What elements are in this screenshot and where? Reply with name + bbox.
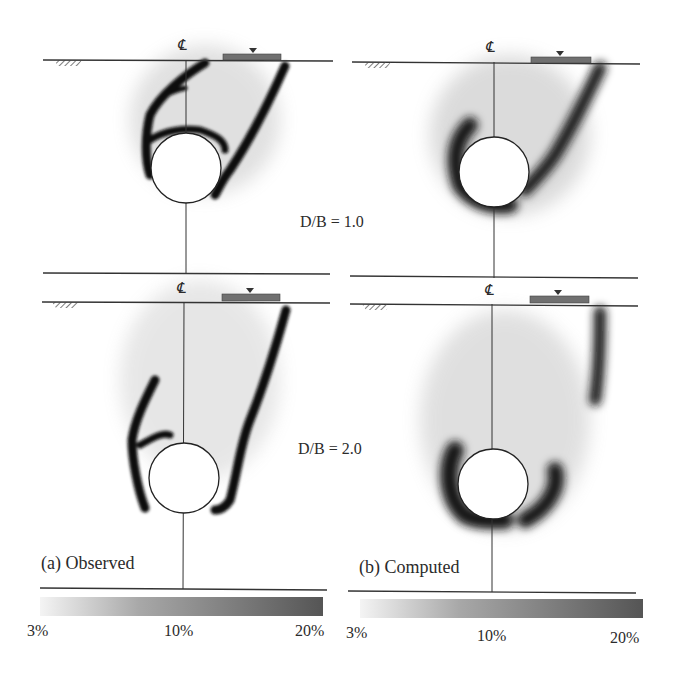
colorbar-a-tick-20: 20% (295, 622, 324, 640)
centerline-symbol: ℄ (484, 281, 494, 299)
figure: ℄ ℄ ℄ ℄ D/B = 1.0 D/B = 2.0 (a) Observed… (0, 0, 677, 676)
row-label-db1: D/B = 1.0 (300, 213, 364, 231)
colorbar-b-tick-3: 3% (346, 624, 367, 642)
centerline-symbol: ℄ (177, 36, 187, 54)
caption-computed: (b) Computed (359, 557, 460, 578)
panel-b-row2 (348, 290, 638, 593)
row-label-db2: D/B = 2.0 (298, 440, 362, 458)
colorbar-a-tick-3: 3% (27, 622, 48, 640)
panel-a-row1 (43, 45, 333, 274)
colorbar-a-tick-10: 10% (164, 622, 193, 640)
panel-b-row1 (350, 51, 640, 278)
figure-graphics (0, 0, 677, 676)
colorbar-b-tick-20: 20% (610, 629, 639, 647)
centerline-symbol: ℄ (176, 279, 186, 297)
centerline-symbol: ℄ (485, 38, 495, 56)
colorbar-b-tick-10: 10% (477, 627, 506, 645)
colorbar-a (40, 597, 323, 616)
colorbar-b (360, 599, 643, 618)
caption-observed: (a) Observed (41, 553, 134, 574)
panel-a-row2 (40, 280, 330, 590)
